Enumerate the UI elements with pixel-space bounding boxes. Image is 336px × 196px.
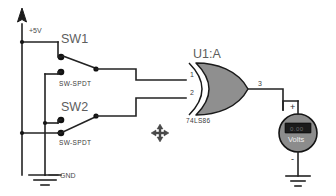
gate-pin-output-label: 3 [258,80,262,87]
gate-pin-input-b-label: 2 [190,89,194,96]
move-crosshair-cursor-icon [151,124,169,142]
xor-gate-u1a[interactable] [189,63,283,115]
junction-dot-supply-sw1 [20,40,24,44]
sw2-reference-label: SW2 [61,100,88,114]
junction-dot-supply-sw2 [20,131,24,135]
supply-label: +5V [29,27,42,34]
switch-sw1[interactable] [58,42,186,80]
sw1-output-wire [96,69,186,80]
gate-pin-input-a-label: 1 [190,71,194,78]
gate-output-wire [248,89,283,110]
xor-gate-body [196,63,248,115]
sw2-throw-arm[interactable] [63,117,95,132]
sw2-output-wire [96,98,186,116]
ground-net [29,74,61,185]
voltmeter-display-text: 0.00 [290,126,304,132]
voltage-source-arrow-icon [18,8,27,22]
voltmeter-label: Volts [288,135,305,144]
schematic-canvas: +5V GND SW1 SW-SPDT SW2 SW-SPDT U1:A 74L… [0,0,336,196]
gate-value-label: 74LS86 [186,117,211,124]
voltmeter-minus-sign: - [291,154,294,164]
gate-reference-label: U1:A [193,47,221,61]
voltmeter-plus-sign: + [290,102,295,112]
sw1-value-label: SW-SPDT [59,80,91,87]
sw1-reference-label: SW1 [61,32,88,46]
ground-label: GND [60,172,76,179]
circuit-schematic: +5V GND SW1 SW-SPDT SW2 SW-SPDT U1:A 74L… [0,0,336,196]
sw1-throw-arm[interactable] [63,56,95,68]
sw2-value-label: SW-SPDT [59,139,91,146]
junction-dot-ground-sw2 [43,121,47,125]
